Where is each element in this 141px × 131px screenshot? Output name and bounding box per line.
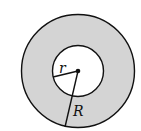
annulus-diagram: r R (0, 0, 141, 131)
center-point (76, 69, 81, 74)
outer-radius-label: R (72, 103, 84, 119)
